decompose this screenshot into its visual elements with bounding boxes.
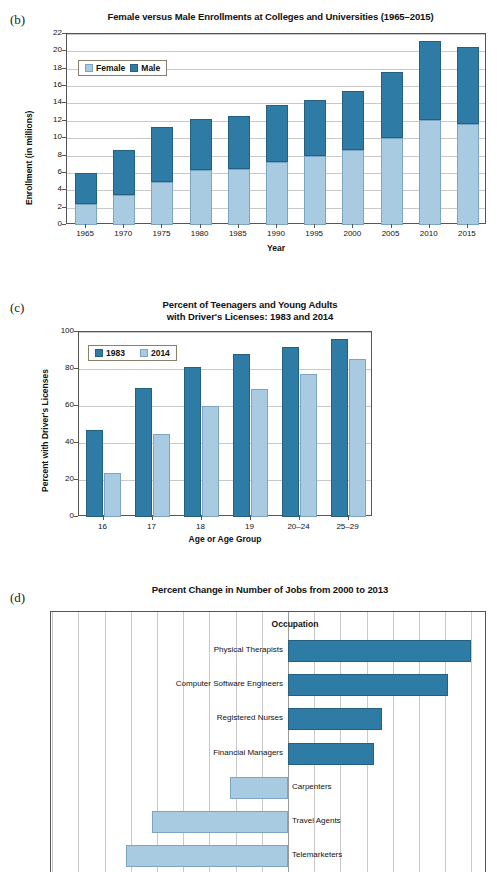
x-tick-mark: [276, 224, 277, 228]
panel-b-title: Female versus Male Enrollments at Colleg…: [48, 11, 493, 23]
y-tick-label: 16: [40, 81, 62, 89]
bar-male-2000: [342, 91, 364, 150]
x-tick-mark: [103, 516, 104, 520]
bar-male-1980: [190, 119, 212, 170]
bar-1983-16: [86, 430, 103, 517]
bar-male-1965: [75, 173, 97, 204]
legend-swatch-male-icon: [130, 64, 138, 72]
bar-label-physical-therapists: Physical Therapists: [50, 645, 283, 654]
bar-1983-25–29: [331, 339, 348, 517]
legend-label-1983: 1983: [106, 348, 125, 358]
bar-female-1975: [151, 182, 173, 225]
bar-telemarketers: [126, 845, 288, 867]
panel-d-title: Percent Change in Number of Jobs from 20…: [60, 584, 480, 596]
x-tick-label: 25–29: [323, 522, 373, 531]
bar-male-1990: [266, 105, 288, 161]
gridline: [471, 612, 472, 872]
bar-2014-19: [251, 389, 268, 517]
bar-male-2015: [457, 47, 479, 124]
bar-female-1970: [113, 195, 135, 225]
legend-label-2014: 2014: [151, 348, 170, 358]
x-tick-label: 20–24: [274, 522, 324, 531]
y-tick-label: 20: [50, 475, 74, 483]
x-tick-label: 2005: [371, 229, 411, 238]
bar-2014-16: [104, 473, 121, 517]
bar-male-1970: [113, 150, 135, 194]
x-tick-mark: [85, 224, 86, 228]
bar-label-financial-managers: Financial Managers: [50, 748, 283, 757]
bar-label-carpenters: Carpenters: [292, 782, 332, 791]
gridline: [67, 34, 485, 35]
y-tick-label: 4: [40, 185, 62, 193]
legend-label-female: Female: [96, 63, 125, 73]
y-tick-label: 18: [40, 64, 62, 72]
bar-2014-18: [202, 406, 219, 517]
figure-page: (b) Female versus Male Enrollments at Co…: [0, 0, 497, 872]
bar-label-telemarketers: Telemarketers: [292, 850, 342, 859]
x-tick-mark: [299, 516, 300, 520]
x-tick-label: 1965: [65, 229, 105, 238]
x-tick-label: 19: [225, 522, 275, 531]
legend-swatch-1983-icon: [95, 349, 103, 357]
panel-d-column-header: Occupation: [240, 619, 350, 629]
panel-c-title-line2: with Driver's Licenses: 1983 and 2014: [55, 311, 445, 323]
gridline: [79, 406, 371, 407]
bar-physical-therapists: [288, 640, 471, 662]
legend-swatch-2014-icon: [140, 349, 148, 357]
gridline: [79, 480, 371, 481]
bar-male-1995: [304, 100, 326, 156]
x-tick-mark: [348, 516, 349, 520]
legend-item-male: Male: [130, 63, 160, 73]
y-tick-label: 14: [40, 98, 62, 106]
x-tick-label: 2015: [447, 229, 487, 238]
y-tick-label: 2: [40, 203, 62, 211]
bar-2014-17: [153, 434, 170, 517]
bar-female-2015: [457, 124, 479, 225]
bar-registered-nurses: [288, 708, 382, 730]
y-tick-label: 80: [50, 364, 74, 372]
bar-female-1965: [75, 204, 97, 225]
y-tick-label: 10: [40, 133, 62, 141]
x-tick-mark: [161, 224, 162, 228]
x-tick-mark: [467, 224, 468, 228]
panel-c-title: Percent of Teenagers and Young Adults wi…: [55, 299, 445, 323]
panel-c-x-axis-title: Age or Age Group: [78, 534, 372, 544]
bar-label-travel-agents: Travel Agents: [292, 816, 341, 825]
bar-carpenters: [230, 777, 288, 799]
y-tick-label: 22: [40, 29, 62, 37]
bar-female-2000: [342, 150, 364, 225]
x-tick-label: 1970: [103, 229, 143, 238]
x-tick-mark: [314, 224, 315, 228]
bar-1983-18: [184, 367, 201, 517]
bar-label-computer-software-engineers: Computer Software Engineers: [50, 679, 283, 688]
gridline: [79, 443, 371, 444]
bar-female-2010: [419, 120, 441, 225]
x-tick-label: 1990: [256, 229, 296, 238]
bar-1983-20–24: [282, 347, 299, 517]
panel-c-y-axis-title: Percent with Driver's Licenses: [40, 369, 50, 492]
panel-b-y-axis-title: Enrollment (in millions): [24, 111, 34, 205]
y-tick-label: 0: [40, 220, 62, 228]
panel-d-tag: (d): [10, 590, 25, 606]
y-tick-label: 12: [40, 116, 62, 124]
y-tick-label: 40: [50, 438, 74, 446]
legend-swatch-female-icon: [85, 64, 93, 72]
x-tick-mark: [238, 224, 239, 228]
bar-financial-managers: [288, 743, 374, 765]
gridline: [79, 369, 371, 370]
bar-2014-25–29: [349, 359, 366, 517]
x-tick-label: 2000: [332, 229, 372, 238]
bar-female-1980: [190, 170, 212, 225]
bar-travel-agents: [152, 811, 288, 833]
panel-c-title-line1: Percent of Teenagers and Young Adults: [55, 299, 445, 311]
legend-item-female: Female: [85, 63, 125, 73]
bar-female-2005: [381, 138, 403, 225]
bar-male-1985: [228, 116, 250, 169]
y-tick-label: 0: [50, 512, 74, 520]
panel-b-legend: Female Male: [78, 60, 167, 76]
x-tick-mark: [391, 224, 392, 228]
x-tick-label: 1980: [180, 229, 220, 238]
y-tick-mark: [62, 224, 66, 225]
x-tick-label: 1985: [218, 229, 258, 238]
bar-male-1975: [151, 127, 173, 182]
